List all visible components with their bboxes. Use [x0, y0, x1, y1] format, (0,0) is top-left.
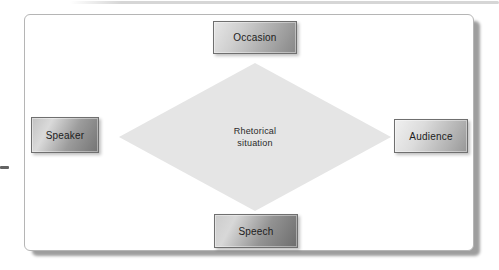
node-audience-label: Audience [409, 131, 452, 142]
page-crop-artifact-line [70, 1, 499, 4]
rhetorical-situation-diamond: Rhetorical situation [119, 63, 391, 211]
diamond-label-line2: situation [234, 137, 277, 149]
diamond-label-line1: Rhetorical [234, 125, 277, 137]
page-margin-dash [0, 166, 9, 169]
node-speaker-label: Speaker [46, 130, 85, 141]
node-occasion-label: Occasion [233, 32, 276, 43]
node-audience: Audience [394, 119, 468, 153]
diamond-center-label: Rhetorical situation [234, 125, 277, 149]
node-speech: Speech [214, 214, 298, 248]
figure-canvas: Rhetorical situation Occasion Speaker Au… [0, 0, 499, 270]
node-speech-label: Speech [238, 226, 273, 237]
node-speaker: Speaker [31, 117, 99, 153]
node-occasion: Occasion [213, 21, 297, 54]
diagram-panel: Rhetorical situation Occasion Speaker Au… [24, 14, 474, 251]
